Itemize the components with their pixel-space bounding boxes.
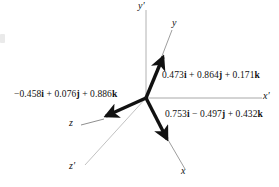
vector-label-z: −0.458i + 0.076j + 0.886k <box>14 90 117 100</box>
vector-arrow-x <box>146 98 167 139</box>
axis-line-z-prime <box>85 98 146 165</box>
vector-label-y: 0.473i + 0.864j + 0.171k <box>162 71 260 81</box>
vector-arrow-z <box>106 98 146 116</box>
vector-label-y-text: 0.473i + 0.864j + 0.171k <box>162 70 260 80</box>
axis-label-x-prime: x′ <box>263 91 270 101</box>
vector-arrow-y <box>146 57 163 98</box>
vector-label-x: 0.753i − 0.497j + 0.432k <box>165 110 263 120</box>
axis-label-z-prime: z′ <box>69 161 75 171</box>
axis-label-y-prime: y′ <box>138 1 145 11</box>
vector-diagram-figure: y′ x′ z′ y x z 0.473i + 0.864j + 0.171k … <box>0 0 279 187</box>
axis-label-x: x <box>181 166 185 176</box>
axis-label-y: y <box>172 18 176 28</box>
vector-label-x-text: 0.753i − 0.497j + 0.432k <box>165 109 263 119</box>
axis-line-z <box>81 119 104 125</box>
vector-label-z-text: −0.458i + 0.076j + 0.886k <box>14 89 117 99</box>
axis-label-z: z <box>69 118 73 128</box>
